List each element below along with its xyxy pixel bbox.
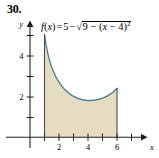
textbook-figure-30: 30. 2 <box>0 0 159 158</box>
formula-radicand: 9 − (x − 4)2 <box>82 21 132 33</box>
y-tick-label-4: 4 <box>19 51 24 61</box>
x-tick-label-6: 6 <box>115 142 119 152</box>
x-axis-label: x <box>149 142 154 152</box>
formula-equals: = <box>56 21 62 32</box>
radicand-mid: − 4) <box>107 21 127 32</box>
x-axis-arrow <box>141 134 148 141</box>
radicand-exponent: 2 <box>127 20 131 28</box>
shaded-region <box>45 35 118 138</box>
x-tick-label-2: 2 <box>57 142 61 152</box>
radicand-lead: 9 − ( <box>83 21 103 32</box>
y-axis-arrow <box>27 21 34 28</box>
formula-constant: 5 <box>63 21 68 32</box>
function-formula: f(x) = 5 − √9 − (x − 4)2 <box>41 21 131 33</box>
y-axis-label: y <box>18 19 23 29</box>
y-tick-label-2: 2 <box>19 92 23 102</box>
formula-radical: √9 − (x − 4)2 <box>76 21 131 33</box>
x-tick-label-4: 4 <box>86 142 91 152</box>
formula-minus: − <box>69 21 75 32</box>
